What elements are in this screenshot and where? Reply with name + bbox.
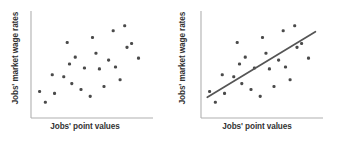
y-axis-label-right: Jobs' market wage rates: [179, 3, 187, 113]
data-point: [44, 101, 47, 104]
data-point: [282, 29, 285, 32]
data-point: [107, 59, 110, 62]
chart-panel-scatter-with-trendline: Jobs' market wage rates Jobs' point valu…: [170, 0, 340, 145]
figure-container: Jobs' market wage rates Jobs' point valu…: [0, 0, 340, 145]
data-point: [91, 36, 94, 39]
data-point: [125, 46, 128, 49]
y-axis-label-left: Jobs' market wage rates: [12, 3, 20, 113]
trendline-group: [207, 32, 315, 98]
data-point: [89, 95, 92, 98]
data-point: [137, 57, 140, 60]
data-point: [307, 57, 310, 60]
data-point: [264, 52, 267, 55]
data-point: [236, 41, 239, 44]
data-point: [123, 24, 126, 27]
regression-trendline: [207, 32, 315, 98]
data-points-left: [38, 24, 140, 104]
data-point: [68, 62, 71, 65]
data-point: [79, 88, 82, 91]
data-point: [249, 88, 252, 91]
data-point: [94, 52, 97, 55]
data-point: [74, 56, 77, 59]
data-point: [300, 42, 303, 45]
data-point: [295, 46, 298, 49]
data-point: [244, 56, 247, 59]
data-point: [208, 90, 211, 93]
data-point: [240, 82, 243, 85]
data-point: [223, 92, 226, 95]
data-point: [66, 41, 69, 44]
data-point: [221, 73, 224, 76]
x-axis-label-right: Jobs' point values: [174, 123, 340, 131]
data-point: [238, 62, 241, 65]
data-point: [259, 95, 262, 98]
data-points-right: [208, 24, 310, 104]
data-point: [214, 101, 217, 104]
data-point: [112, 29, 115, 32]
data-point: [272, 85, 275, 88]
data-point: [268, 67, 271, 70]
data-point: [289, 78, 292, 81]
data-point: [53, 92, 56, 95]
data-point: [102, 85, 105, 88]
data-point: [232, 75, 235, 78]
data-point: [130, 42, 133, 45]
x-axis-label-left: Jobs' point values: [0, 123, 170, 131]
data-point: [119, 78, 122, 81]
data-point: [70, 82, 73, 85]
data-point: [261, 36, 264, 39]
data-point: [83, 66, 86, 69]
data-point: [62, 75, 65, 78]
data-point: [293, 24, 296, 27]
data-point: [284, 65, 287, 68]
data-point: [114, 65, 117, 68]
data-point: [51, 73, 54, 76]
axis-lines-left: [31, 11, 153, 118]
data-point: [277, 59, 280, 62]
chart-panel-scatter-only: Jobs' market wage rates Jobs' point valu…: [0, 0, 170, 145]
data-point: [98, 67, 101, 70]
data-point: [38, 90, 41, 93]
